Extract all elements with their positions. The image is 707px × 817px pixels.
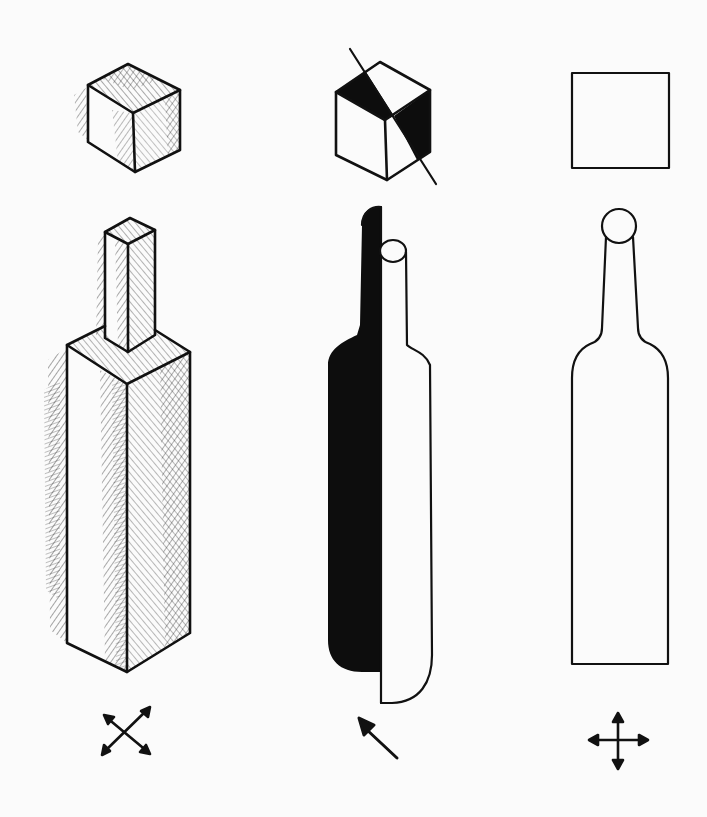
split-shadow-cube	[336, 49, 436, 184]
illustration-canvas	[0, 0, 707, 817]
flat-square-outline	[572, 73, 669, 168]
four-diagonal-arrows-icon	[102, 707, 150, 755]
single-diagonal-arrow-icon	[359, 718, 397, 758]
bottle-silhouette-outline	[572, 209, 668, 664]
half-shadow-round-bottle	[328, 207, 432, 703]
hatched-square-bottle	[44, 218, 190, 672]
four-orthogonal-arrows-icon	[589, 713, 648, 769]
hatched-cube	[74, 64, 180, 172]
